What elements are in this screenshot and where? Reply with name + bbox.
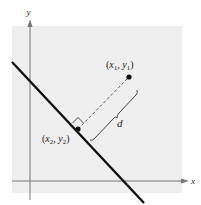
y-axis-label: y <box>26 7 31 17</box>
distance-diagram: y x (x1, y1) (x2, y2) d <box>0 0 201 205</box>
distance-label: d <box>117 117 123 129</box>
x-axis-arrow-icon <box>181 179 189 184</box>
point-1-dot <box>126 74 131 79</box>
point-2-dot <box>75 126 80 131</box>
y-axis-arrow-icon <box>28 19 33 27</box>
x-axis-label: x <box>190 176 195 186</box>
